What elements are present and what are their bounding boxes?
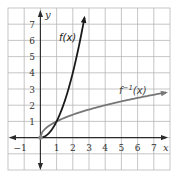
y-tick-label: 6 bbox=[29, 36, 35, 46]
x-axis-label: x bbox=[163, 142, 169, 153]
x-axis bbox=[9, 135, 168, 140]
y-tick-label: 3 bbox=[29, 85, 35, 95]
x-tick-label: 5 bbox=[119, 143, 125, 153]
y-tick-labels: 1234567 bbox=[29, 20, 35, 127]
function-curve-arrow-icon bbox=[81, 16, 87, 23]
inverse-curve-arrow-icon bbox=[161, 91, 168, 97]
y-axis-label: y bbox=[44, 9, 51, 20]
y-axis bbox=[38, 10, 43, 170]
f-inverse-sup: −1 bbox=[123, 84, 133, 92]
x-tick-label: 6 bbox=[135, 143, 141, 153]
x-axis-arrow-right-icon bbox=[161, 135, 168, 140]
x-tick-label: 2 bbox=[70, 143, 76, 153]
x-axis-arrow-left-icon bbox=[9, 135, 16, 140]
origin-point bbox=[38, 135, 42, 139]
x-tick-label: 3 bbox=[86, 143, 92, 153]
f-inverse-tail: (x) bbox=[133, 85, 147, 96]
x-tick-label: 1 bbox=[54, 143, 60, 153]
x-tick-label: 7 bbox=[151, 143, 157, 153]
y-tick-label: 2 bbox=[29, 101, 35, 111]
y-tick-label: 4 bbox=[29, 68, 35, 78]
y-axis-arrow-up-icon bbox=[38, 10, 43, 17]
f-label: f(x) bbox=[59, 32, 76, 43]
f-inverse-label: f−1(x) bbox=[119, 84, 147, 96]
y-axis-arrow-down-icon bbox=[38, 163, 43, 170]
y-tick-label: 5 bbox=[29, 52, 35, 62]
y-tick-label: 1 bbox=[29, 117, 35, 127]
x-tick-label: 4 bbox=[102, 143, 108, 153]
y-tick-label: 7 bbox=[29, 20, 35, 30]
x-tick-labels: −11234567 bbox=[14, 143, 157, 153]
function-graph: −11234567 1234567 x y f(x) f−1(x) bbox=[0, 0, 179, 182]
x-tick-label: −1 bbox=[14, 143, 27, 153]
